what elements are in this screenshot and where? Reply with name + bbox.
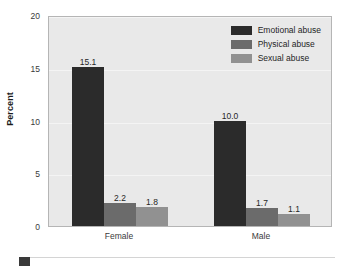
y-tick-label: 5 [22,169,44,179]
bar-value-label: 2.2 [114,193,126,203]
x-tick-label: Male [252,231,270,241]
bar-value-label: 15.1 [80,57,97,67]
legend-label: Sexual abuse [258,54,310,63]
plot-area: 15.12.21.810.01.71.1 Emotional abusePhys… [48,16,332,227]
next-figure-legend-swatch [19,257,30,266]
legend-item: Emotional abuse [231,25,321,36]
next-figure-rule [30,257,335,258]
bar [214,121,246,227]
x-axis-tick-labels: FemaleMale [48,231,332,247]
legend-item: Physical abuse [231,39,321,50]
bar [72,67,104,226]
bar-value-label: 1.7 [256,198,268,208]
bar-value-label: 1.8 [146,197,158,207]
y-tick-label: 15 [22,64,44,74]
legend-item: Sexual abuse [231,53,321,64]
y-axis-title: Percent [5,79,15,139]
legend: Emotional abusePhysical abuseSexual abus… [231,25,321,64]
legend-swatch [231,26,252,35]
y-tick-label: 0 [22,222,44,232]
y-axis-tick-labels: 05101520 [22,0,44,266]
next-figure-strip [0,256,350,266]
y-tick-label: 20 [22,11,44,21]
x-tick-label: Female [105,231,133,241]
bar-value-label: 10.0 [222,111,239,121]
bar-chart-figure: Percent 05101520 15.12.21.810.01.71.1 Em… [0,0,350,266]
bar [246,208,278,226]
bar-value-label: 1.1 [288,204,300,214]
y-tick-label: 10 [22,117,44,127]
legend-swatch [231,40,252,49]
legend-swatch [231,54,252,63]
legend-label: Physical abuse [258,40,315,49]
bar [278,214,310,226]
bar [104,203,136,226]
bar [136,207,168,226]
legend-label: Emotional abuse [258,26,321,35]
